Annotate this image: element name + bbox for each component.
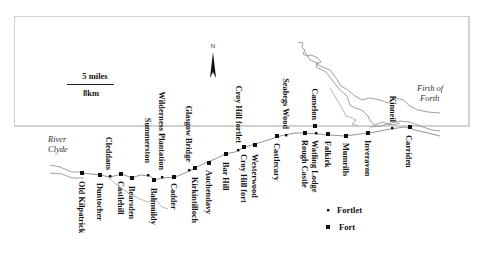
fortlet-watling-lodge <box>315 132 317 134</box>
fort-castlecary <box>275 134 279 138</box>
label-cadder: Cadder <box>169 183 178 210</box>
label-seabegs-wood: Seabegs Wood <box>281 78 290 129</box>
antonine-wall-map: 5 miles 8km N River Clyde Firth of Forth… <box>0 0 484 278</box>
antonine-wall-line <box>82 127 440 180</box>
labels-below: Old Kilpatrick Duntocher Castlehill Bear… <box>77 135 413 234</box>
label-wilderness-plantation: Wilderness Plantation <box>157 92 166 171</box>
legend-fort-label: Fort <box>339 222 355 232</box>
fort-camelon <box>313 124 317 128</box>
label-auchendavy: Auchendavy <box>204 170 213 215</box>
label-rough-castle: Rough Castle <box>300 140 309 188</box>
label-croy-hill-fortlet: Croy Hill fortlet <box>234 86 243 144</box>
label-camelon: Camelon <box>310 88 319 120</box>
fort-bar-hill <box>224 152 228 156</box>
fortlet-cleddans <box>109 175 111 177</box>
fortlet-kinneil <box>391 127 393 129</box>
label-falkirk: Falkirk <box>323 141 332 168</box>
fort-duntocher <box>98 173 102 177</box>
firth-forth-label-1: Firth of <box>416 83 445 93</box>
river-clyde-bank <box>50 173 84 178</box>
label-kinneil: Kinneil <box>388 96 397 123</box>
fort-old-kilpatrick <box>80 171 84 175</box>
legend-fort-icon <box>326 225 330 229</box>
fort-carriden <box>408 125 412 129</box>
scale-miles-label: 5 miles <box>82 71 108 81</box>
label-bearsden: Bearsden <box>127 186 136 220</box>
river-clyde <box>50 165 80 172</box>
fortlet-croy-hill <box>237 149 239 151</box>
label-croy-hill-fort: Croy Hill fort <box>239 154 248 203</box>
firth-forth-label-2: Forth <box>419 93 439 103</box>
legend-fortlet-icon <box>327 209 329 211</box>
fortlet-glasgow-bridge <box>188 169 190 171</box>
label-watling-lodge: Watling Lodge <box>310 140 319 193</box>
fort-cadder <box>172 175 176 179</box>
label-duntocher: Duntocher <box>95 183 104 221</box>
fort-auchendavy <box>207 161 211 165</box>
label-mumrills: Mumrills <box>341 143 350 177</box>
label-westerwood: Westerwood <box>250 154 259 198</box>
fort-mumrills <box>344 134 348 138</box>
legend-fortlet-label: Fortlet <box>337 205 362 215</box>
river-clyde-label-2: Clyde <box>48 144 68 154</box>
north-label: N <box>211 43 215 49</box>
fort-bearsden <box>130 176 134 180</box>
label-carriden: Carriden <box>404 135 413 168</box>
fortlet-seabegs-wood <box>285 134 287 136</box>
fort-balmuildy <box>152 178 156 182</box>
fort-falkirk <box>326 132 330 136</box>
fort-castlehill <box>119 172 123 176</box>
river-clyde-label-1: River <box>47 134 67 144</box>
label-kirkintilloch: Kirkintilloch <box>190 177 199 223</box>
fort-inveravon <box>366 131 370 135</box>
label-bar-hill: Bar Hill <box>221 162 230 191</box>
legend: Fortlet Fort <box>326 205 362 232</box>
fort-croy-hill <box>242 145 246 149</box>
label-cleddans: Cleddans <box>104 137 113 171</box>
label-summerston: Summerston <box>143 118 152 164</box>
label-glasgow-bridge: Glasgow Bridge <box>184 106 193 163</box>
label-old-kilpatrick: Old Kilpatrick <box>77 181 86 234</box>
fort-kirkintilloch <box>193 166 197 170</box>
north-arrow-icon <box>210 52 216 78</box>
fortlet-wilderness-plantation <box>161 176 163 178</box>
fortlet-summerston <box>147 174 149 176</box>
fort-rough-castle <box>303 131 307 135</box>
label-inveravon: Inveravon <box>363 140 372 177</box>
fort-westerwood <box>253 143 257 147</box>
label-castlehill: Castlehill <box>116 181 125 215</box>
label-castlecary: Castlecary <box>272 143 281 182</box>
scale-km-label: 8km <box>83 88 99 98</box>
label-balmuildy: Balmuildy <box>149 188 158 226</box>
